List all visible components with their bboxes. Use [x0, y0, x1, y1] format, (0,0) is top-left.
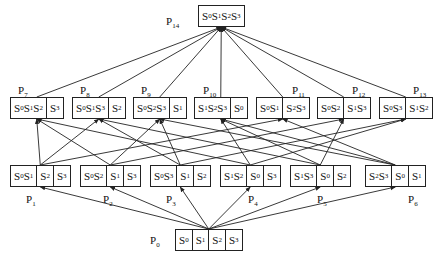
block-cell: S0S3: [151, 166, 176, 186]
block-cell: S1S3: [291, 166, 316, 186]
block-cell: S1: [176, 166, 193, 186]
edge-p2-to-p9: [110, 119, 160, 165]
node-label-p11: P11: [292, 84, 305, 99]
edge-p0-to-p4: [209, 187, 251, 229]
node-label-p6: P6: [408, 193, 418, 208]
block-cell: S1: [408, 166, 425, 186]
block-cell: S0S2: [318, 98, 343, 118]
block-cell: S0S1S3: [73, 98, 108, 118]
partition-node-p14: S0S1S2S3: [198, 5, 245, 27]
block-cell: S1: [169, 98, 186, 118]
partition-node-p1: S0S1S2S3: [10, 165, 71, 187]
node-label-p3: P3: [166, 193, 176, 208]
block-cell: S0S1: [257, 98, 282, 118]
node-label-p10: P10: [203, 84, 216, 99]
block-cell: S3: [46, 98, 63, 118]
block-cell: S2: [208, 230, 225, 250]
node-label-p0: P0: [150, 234, 160, 249]
partition-node-p2: S0S2S1S3: [80, 165, 141, 187]
block-cell: S0: [230, 98, 247, 118]
block-cell: S0: [246, 166, 263, 186]
node-label-p8: P8: [80, 84, 90, 99]
block-cell: S0S3: [380, 98, 405, 118]
edge-p6-to-p9: [160, 119, 396, 165]
block-cell: S1S2: [405, 98, 431, 118]
partition-node-p10: S1S2S3S0: [194, 97, 248, 119]
block-cell: S2S3: [282, 98, 308, 118]
partition-node-p8: S0S1S3S2: [72, 97, 126, 119]
edge-p12-to-p14: [221, 27, 344, 97]
block-cell: S0: [316, 166, 333, 186]
partition-node-p6: S2S3S0S1: [365, 165, 426, 187]
block-cell: S1S2: [221, 166, 246, 186]
edge-p2-to-p7: [37, 119, 111, 165]
block-cell: S3: [225, 230, 242, 250]
block-cell: S2: [333, 166, 350, 186]
node-label-p4: P4: [248, 193, 258, 208]
block-cell: S1: [192, 230, 209, 250]
node-label-p13: P13: [413, 84, 426, 99]
block-cell: S3: [123, 166, 140, 186]
edge-p4-to-p13: [250, 119, 406, 165]
block-cell: S0S2S3: [134, 98, 169, 118]
block-cell: S0: [176, 230, 192, 250]
block-cell: S1: [106, 166, 123, 186]
partition-node-p9: S0S2S3S1: [133, 97, 187, 119]
edges-layer: [0, 0, 438, 266]
block-cell: S1S2S3: [195, 98, 230, 118]
edge-p5-to-p8: [99, 119, 321, 165]
block-cell: S2: [36, 166, 53, 186]
partition-node-p7: S0S1S2S3: [10, 97, 64, 119]
node-label-p1: P1: [26, 193, 36, 208]
partition-node-p0: S0S1S2S3: [175, 229, 243, 251]
edge-p1-to-p7: [37, 119, 41, 165]
edge-p11-to-p14: [221, 27, 283, 97]
partition-node-p12: S0S2S1S3: [317, 97, 371, 119]
block-cell: S2S3: [366, 166, 391, 186]
node-label-p9: P9: [141, 84, 151, 99]
block-cell: S0S1: [11, 166, 36, 186]
block-cell: S3: [53, 166, 70, 186]
edge-p13-to-p14: [221, 27, 406, 97]
node-label-p5: P5: [317, 193, 327, 208]
partition-node-p3: S0S3S1S2: [150, 165, 211, 187]
partition-node-p5: S1S3S0S2: [290, 165, 351, 187]
block-cell: S0S1S2: [11, 98, 46, 118]
edge-p5-to-p12: [320, 119, 344, 165]
edge-p3-to-p8: [99, 119, 181, 165]
block-cell: S0S2: [81, 166, 106, 186]
block-cell: S2: [108, 98, 125, 118]
node-label-p14: P14: [166, 15, 179, 30]
edge-p6-to-p11: [283, 119, 396, 165]
block-cell: S2: [193, 166, 210, 186]
edge-p0-to-p6: [209, 187, 396, 229]
block-cell: S3: [263, 166, 280, 186]
edge-p3-to-p13: [180, 119, 406, 165]
partition-lattice-diagram: S0S1S2S3P0S0S1S2S3P1S0S2S1S3P2S0S3S1S2P3…: [0, 0, 438, 266]
block-cell: S1S3: [343, 98, 369, 118]
node-label-p7: P7: [18, 84, 28, 99]
partition-node-p13: S0S3S1S2: [379, 97, 433, 119]
partition-node-p4: S1S2S0S3: [220, 165, 281, 187]
edge-p7-to-p14: [37, 27, 222, 97]
edge-p10-to-p14: [221, 27, 222, 97]
node-label-p12: P12: [352, 84, 365, 99]
block-cell: S0S1S2S3: [199, 6, 244, 26]
partition-node-p11: S0S1S2S3: [256, 97, 310, 119]
block-cell: S0: [391, 166, 408, 186]
node-label-p2: P2: [103, 193, 113, 208]
